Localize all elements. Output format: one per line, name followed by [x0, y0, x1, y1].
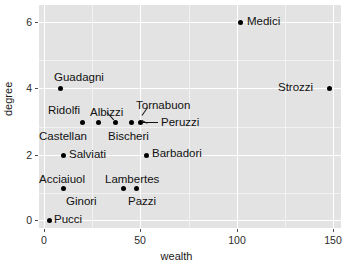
x-tick-label-150: 150: [318, 234, 348, 246]
data-point-castellan[interactable]: [80, 120, 85, 125]
x-axis-title: wealth: [0, 250, 353, 262]
data-point-lambertes[interactable]: [121, 186, 126, 191]
y-tick-label-2: 2: [10, 149, 32, 161]
plot-panel: Guadagni Medici Strozzi Ridolfi Albizzi …: [39, 5, 341, 228]
y-tick-label-4: 4: [10, 82, 32, 94]
x-tick-mark-50: [140, 229, 141, 232]
point-label-lambertes: Lambertes: [105, 173, 159, 185]
data-point-salviati[interactable]: [61, 153, 66, 158]
data-point-strozzi[interactable]: [327, 86, 332, 91]
x-tick-label-100: 100: [222, 234, 252, 246]
data-point-bischeri[interactable]: [129, 120, 134, 125]
point-label-medici: Medici: [247, 15, 280, 27]
data-point-pazzi[interactable]: [134, 186, 139, 191]
point-label-guadagni: Guadagni: [54, 71, 104, 83]
point-label-pucci: Pucci: [54, 213, 82, 225]
x-tick-mark-150: [333, 229, 334, 232]
y-tick-label-0: 0: [10, 214, 32, 226]
x-tick-mark-0: [44, 229, 45, 232]
gridline-major-h-6: [39, 22, 341, 23]
gridline-major-v-100: [237, 5, 238, 228]
point-label-strozzi: Strozzi: [278, 81, 313, 93]
y-tick-mark-0: [35, 220, 38, 221]
data-point-barbadori[interactable]: [144, 153, 149, 158]
gridline-minor-h-5: [39, 60, 341, 61]
x-tick-mark-100: [237, 229, 238, 232]
point-label-albizzi: Albizzi: [90, 106, 123, 118]
point-label-salviati: Salviati: [69, 148, 106, 160]
y-tick-mark-4: [35, 88, 38, 89]
data-point-acciaiuol[interactable]: [61, 186, 66, 191]
point-label-acciaiuol: Acciaiuol: [39, 173, 85, 185]
gridline-major-h-0: [39, 220, 341, 221]
gridline-major-v-0: [44, 5, 45, 228]
data-point-medici[interactable]: [238, 20, 243, 25]
point-label-bischeri: Bischeri: [108, 130, 149, 142]
point-label-castellan: Castellan: [39, 130, 87, 142]
y-tick-mark-2: [35, 155, 38, 156]
x-tick-label-0: 0: [29, 234, 59, 246]
gridline-major-v-150: [333, 5, 334, 228]
scatter-plot-figure: degree wealth 6 4 2 0 0 50 100 150: [0, 0, 353, 270]
point-label-barbadori: Barbadori: [152, 147, 202, 159]
point-label-ridolfi: Ridolfi: [48, 104, 80, 116]
point-label-peruzzi: Peruzzi: [161, 116, 199, 128]
y-tick-mark-6: [35, 22, 38, 23]
data-point-pucci[interactable]: [47, 218, 52, 223]
gridline-minor-v-125: [285, 5, 286, 228]
peruzzi-leader-hook: [142, 120, 148, 124]
data-point-ridolfi[interactable]: [96, 120, 101, 125]
point-label-tornabuon: Tornabuon: [136, 99, 190, 111]
point-label-ginori: Ginori: [66, 195, 97, 207]
x-tick-label-50: 50: [125, 234, 155, 246]
y-tick-label-6: 6: [10, 16, 32, 28]
gridline-minor-h-1: [39, 193, 341, 194]
data-point-guadagni[interactable]: [58, 86, 63, 91]
point-label-pazzi: Pazzi: [128, 195, 156, 207]
